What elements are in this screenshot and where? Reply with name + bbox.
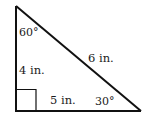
- hypotenuse-label: 6 in.: [88, 51, 114, 65]
- right-angle-marker: [16, 90, 36, 112]
- vertical-side-label: 4 in.: [19, 63, 45, 77]
- top-angle-label: 60°: [19, 26, 39, 39]
- hypotenuse: [16, 6, 141, 111]
- bottom-right-angle-label: 30°: [95, 95, 115, 108]
- bottom-side-label: 5 in.: [50, 93, 76, 107]
- right-triangle-diagram: 60° 4 in. 6 in. 5 in. 30°: [0, 0, 142, 119]
